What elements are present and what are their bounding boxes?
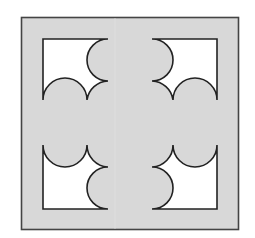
scalloped-square-diagram (0, 0, 255, 238)
